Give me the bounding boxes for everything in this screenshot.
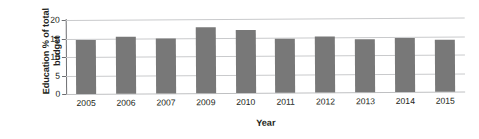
bar-slot	[66, 20, 106, 94]
y-tick-label: 10	[50, 53, 60, 62]
y-tick-mark-0	[62, 94, 66, 95]
bar-slot	[106, 20, 146, 94]
x-tick-label-2007: 2007	[156, 97, 175, 107]
x-tick-label-2006: 2006	[116, 98, 135, 108]
bar-slot	[185, 19, 225, 93]
bar-slot	[425, 18, 465, 92]
x-axis-tick-labels: 2005200620072009201020112012201320142015	[66, 96, 465, 112]
bar-chart: Education % of total budget 05101520 200…	[0, 0, 479, 139]
bar-2007	[156, 38, 176, 94]
plot-area: 05101520	[66, 18, 465, 94]
bar-slot	[145, 19, 185, 93]
bar-slot	[385, 18, 425, 92]
bar-2015	[435, 40, 455, 92]
bar-2014	[395, 38, 415, 92]
y-tick-label: 20	[50, 16, 60, 25]
bar-slot	[345, 18, 385, 92]
x-axis-title: Year	[66, 117, 465, 129]
y-tick-label: 0	[55, 90, 60, 99]
bar-2013	[355, 39, 375, 92]
bar-2011	[275, 39, 295, 93]
x-tick-label-2015: 2015	[436, 96, 455, 106]
x-tick-label-2010: 2010	[236, 97, 255, 107]
bar-2012	[315, 36, 335, 92]
chart-plot-container: Education % of total budget 05101520 200…	[0, 0, 479, 139]
bar-2009	[195, 27, 215, 93]
bar-series	[66, 18, 465, 94]
bar-2006	[116, 37, 136, 94]
x-tick-label-2014: 2014	[396, 96, 415, 106]
x-tick-label-2011: 2011	[276, 97, 295, 107]
bar-2005	[76, 40, 96, 94]
y-tick-label: 15	[50, 34, 60, 43]
bar-slot	[265, 19, 305, 93]
x-tick-label-2013: 2013	[356, 96, 375, 106]
y-tick-label: 5	[55, 71, 60, 80]
x-tick-label-2012: 2012	[316, 96, 335, 106]
bar-2010	[235, 30, 255, 93]
bar-slot	[305, 18, 345, 92]
x-tick-label-2005: 2005	[77, 98, 96, 108]
x-tick-label-2009: 2009	[196, 97, 215, 107]
bar-slot	[225, 19, 265, 93]
